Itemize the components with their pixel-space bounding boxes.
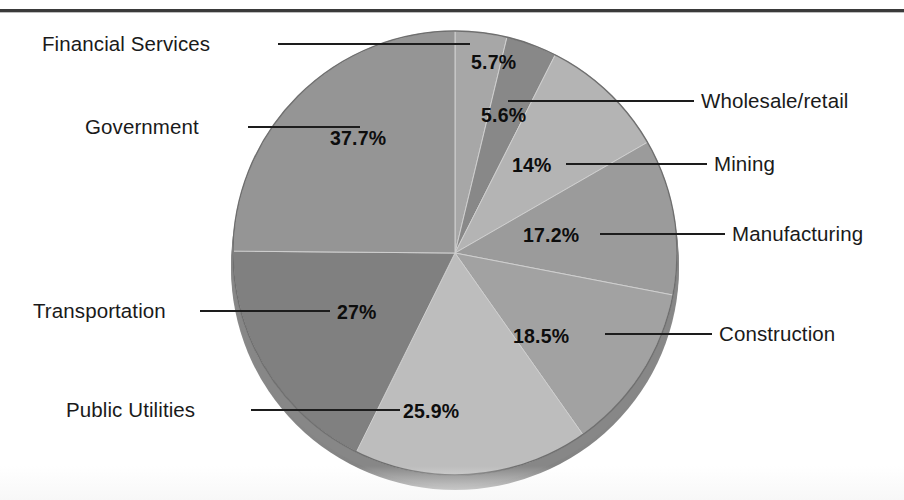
callout-construction: Construction (719, 322, 835, 346)
callout-financial-services: Financial Services (42, 32, 210, 56)
value-label-mining: 14% (512, 154, 552, 177)
callout-mining: Mining (714, 152, 775, 176)
value-label-financial-services: 5.7% (471, 51, 516, 74)
callout-government: Government (85, 115, 199, 139)
callout-transportation: Transportation (33, 299, 166, 323)
value-label-construction: 18.5% (513, 325, 569, 348)
callout-wholesale-retail: Wholesale/retail (701, 89, 848, 113)
value-label-transportation: 27% (337, 301, 377, 324)
value-label-wholesale-retail: 5.6% (481, 104, 526, 127)
value-label-public-utilities: 25.9% (403, 400, 459, 423)
figure-canvas: Financial Services Government Transporta… (0, 0, 904, 500)
pie-chart (0, 0, 904, 500)
callout-public-utilities: Public Utilities (66, 398, 195, 422)
value-label-manufacturing: 17.2% (523, 224, 579, 247)
callout-manufacturing: Manufacturing (732, 222, 863, 246)
value-label-government: 37.7% (330, 127, 386, 150)
